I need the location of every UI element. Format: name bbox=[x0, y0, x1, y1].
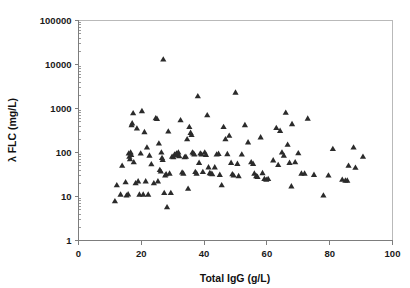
data-point bbox=[232, 89, 238, 94]
x-tick-label: 20 bbox=[136, 248, 147, 259]
data-point bbox=[283, 109, 289, 114]
data-point bbox=[161, 190, 167, 195]
data-point bbox=[345, 162, 351, 167]
data-point bbox=[168, 190, 174, 195]
data-point bbox=[114, 182, 120, 187]
data-point bbox=[145, 191, 151, 196]
data-point bbox=[112, 198, 118, 203]
y-tick-label: 100 bbox=[56, 147, 72, 158]
data-point bbox=[239, 151, 245, 156]
data-point bbox=[140, 191, 146, 196]
y-axis-title: λ FLC (mg/L) bbox=[6, 98, 18, 162]
data-point bbox=[220, 124, 226, 129]
data-point bbox=[138, 150, 144, 155]
data-point bbox=[320, 192, 326, 197]
data-point bbox=[148, 161, 154, 166]
plot-frame bbox=[79, 21, 393, 241]
y-tick-label: 10 bbox=[61, 191, 72, 202]
data-point bbox=[141, 129, 147, 134]
x-tick-label: 60 bbox=[262, 248, 273, 259]
data-point bbox=[270, 157, 276, 162]
data-point bbox=[288, 183, 294, 188]
data-point bbox=[286, 160, 292, 165]
data-point bbox=[228, 160, 234, 165]
y-tick-label: 10000 bbox=[45, 59, 71, 70]
y-axis-tick-labels: 110100100010000100000 bbox=[40, 15, 72, 246]
data-point bbox=[119, 162, 125, 167]
data-point bbox=[295, 150, 301, 155]
data-point bbox=[259, 170, 265, 175]
data-point bbox=[130, 110, 136, 115]
data-point bbox=[258, 134, 264, 139]
data-point bbox=[134, 125, 140, 130]
data-point bbox=[156, 140, 162, 145]
data-point bbox=[285, 141, 291, 146]
data-point bbox=[177, 117, 183, 122]
data-point bbox=[350, 144, 356, 149]
y-axis-ticks bbox=[75, 21, 79, 241]
data-point bbox=[195, 93, 201, 98]
data-point bbox=[144, 144, 150, 149]
chart-container: 110100100010000100000 020406080100 Total… bbox=[0, 0, 410, 288]
data-point bbox=[164, 204, 170, 209]
data-point bbox=[234, 161, 240, 166]
data-point bbox=[129, 120, 135, 125]
data-point bbox=[160, 56, 166, 61]
x-axis-title: Total IgG (g/L) bbox=[200, 272, 270, 284]
x-axis-ticks bbox=[79, 241, 393, 245]
data-point bbox=[360, 153, 366, 158]
data-point bbox=[325, 172, 331, 177]
data-point bbox=[292, 159, 298, 164]
data-point bbox=[143, 178, 149, 183]
data-point bbox=[166, 170, 172, 175]
data-point bbox=[185, 185, 191, 190]
y-tick-label: 100000 bbox=[40, 15, 72, 26]
x-tick-label: 100 bbox=[385, 248, 401, 259]
x-axis-tick-labels: 020406080100 bbox=[76, 248, 401, 259]
scatter-plot: 110100100010000100000 020406080100 Total… bbox=[0, 0, 410, 288]
data-point bbox=[226, 132, 232, 137]
data-point bbox=[205, 164, 211, 169]
x-tick-label: 40 bbox=[199, 248, 210, 259]
data-point bbox=[224, 151, 230, 156]
y-tick-label: 1 bbox=[66, 235, 72, 246]
data-point bbox=[330, 146, 336, 151]
x-tick-label: 80 bbox=[324, 248, 335, 259]
data-point bbox=[305, 115, 311, 120]
data-point bbox=[236, 173, 242, 178]
data-point bbox=[242, 122, 248, 127]
data-point bbox=[212, 164, 218, 169]
data-point bbox=[117, 191, 123, 196]
x-tick-label: 0 bbox=[76, 248, 81, 259]
data-point bbox=[200, 169, 206, 174]
data-point bbox=[146, 152, 152, 157]
data-point-series bbox=[112, 56, 366, 209]
y-tick-label: 1000 bbox=[50, 103, 71, 114]
data-point bbox=[311, 172, 317, 177]
data-point bbox=[155, 178, 161, 183]
data-point bbox=[219, 182, 225, 187]
data-point bbox=[245, 139, 251, 144]
data-point bbox=[352, 164, 358, 169]
data-point bbox=[186, 124, 192, 129]
data-point bbox=[204, 112, 210, 117]
data-point bbox=[123, 179, 129, 184]
data-point bbox=[139, 108, 145, 113]
data-point bbox=[158, 149, 164, 154]
data-point bbox=[289, 121, 295, 126]
data-point bbox=[273, 125, 279, 130]
data-point bbox=[196, 160, 202, 165]
data-point bbox=[165, 128, 171, 133]
data-point bbox=[217, 172, 223, 177]
